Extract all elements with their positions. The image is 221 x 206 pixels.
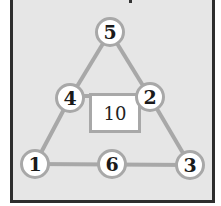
node-label: 5 [103, 23, 116, 42]
node-top: 5 [95, 17, 125, 47]
node-bottom-left: 1 [20, 149, 50, 179]
center-sum-box: 10 [89, 93, 141, 133]
node-label: 4 [63, 89, 76, 108]
node-label: 6 [105, 155, 118, 174]
node-bottom-right: 3 [175, 150, 205, 180]
node-bottom-middle: 6 [97, 149, 127, 179]
node-label: 3 [183, 156, 196, 175]
node-label: 2 [143, 88, 156, 107]
center-value: 10 [104, 103, 127, 124]
node-mid-left: 4 [55, 83, 85, 113]
node-label: 1 [28, 155, 41, 174]
node-mid-right: 2 [135, 82, 165, 112]
